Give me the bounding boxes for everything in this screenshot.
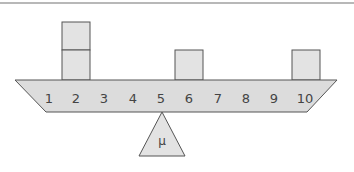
balance-beam: [15, 80, 337, 112]
blocks: [62, 22, 320, 80]
scale-label-9: 9: [270, 91, 278, 106]
balance-diagram: 1 2 3 4 5 6 7 8 9 10 μ: [0, 0, 354, 172]
scale-label-3: 3: [100, 91, 108, 106]
scale-label-8: 8: [242, 91, 250, 106]
scale-label-6: 6: [185, 91, 193, 106]
block-position-2-top: [62, 22, 90, 50]
block-position-2-bottom: [62, 50, 90, 80]
scale-label-10: 10: [297, 91, 314, 106]
scale-label-2: 2: [72, 91, 80, 106]
scale-label-1: 1: [45, 91, 53, 106]
scale-label-5: 5: [157, 91, 165, 106]
scale-label-4: 4: [129, 91, 137, 106]
scale-label-7: 7: [214, 91, 222, 106]
block-position-10: [292, 50, 320, 80]
fulcrum-label: μ: [158, 134, 166, 148]
block-position-6: [175, 50, 203, 80]
